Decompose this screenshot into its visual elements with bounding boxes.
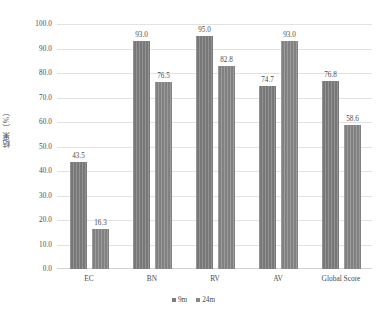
x-axis-tick-label-rv: RV: [210, 274, 220, 283]
legend-swatch-icon: [196, 298, 200, 302]
bar-ec-9m: 43.5: [70, 162, 87, 269]
bar-value-label: 16.3: [94, 219, 107, 227]
bar-value-label: 58.6: [346, 115, 359, 123]
bar-rv-9m: 95.0: [196, 36, 213, 269]
bar-bn-24m: 76.5: [155, 82, 172, 270]
bar-group-av: 74.7 93.0: [259, 24, 298, 269]
bar-value-label: 82.8: [220, 56, 233, 64]
bar-value-label: 93.0: [135, 31, 148, 39]
y-axis-tick-label: 30.0: [0, 192, 52, 200]
y-axis-tick-label: 70.0: [0, 94, 52, 102]
chart-legend: 9m 24m: [0, 296, 387, 304]
bar-rv-24m: 82.8: [218, 66, 235, 269]
bar-ec-24m: 16.3: [92, 229, 109, 269]
bar-value-label: 43.5: [72, 152, 85, 160]
x-axis-tick-label-bn: BN: [147, 274, 157, 283]
y-axis-tick-label: 90.0: [0, 45, 52, 53]
bar-group-rv: 95.0 82.8: [196, 24, 235, 269]
legend-label: 9m: [178, 296, 187, 304]
y-axis-tick-label: 50.0: [0, 143, 52, 151]
bar-av-24m: 93.0: [281, 41, 298, 269]
y-axis-tick-label: 80.0: [0, 69, 52, 77]
bar-value-label: 76.5: [157, 72, 170, 80]
bar-group-bn: 93.0 76.5: [133, 24, 172, 269]
bar-chart: 结果（%） 100.0 90.0 80.0 70.0 60.0 50.0 40.…: [0, 0, 387, 320]
y-axis-tick-label: 100.0: [0, 20, 52, 28]
y-axis-tick-label: 0.0: [0, 265, 52, 273]
bar-group-ec: 43.5 16.3: [70, 24, 109, 269]
bar-av-9m: 74.7: [259, 86, 276, 269]
bar-value-label: 74.7: [261, 76, 274, 84]
bar-bn-9m: 93.0: [133, 41, 150, 269]
bar-value-label: 95.0: [198, 26, 211, 34]
x-axis-tick-label-global-score: Global Score: [322, 274, 361, 283]
y-axis-tick-label: 40.0: [0, 167, 52, 175]
y-axis-tick-label: 10.0: [0, 241, 52, 249]
y-axis-tick-label: 20.0: [0, 216, 52, 224]
legend-label: 24m: [202, 296, 215, 304]
legend-swatch-icon: [172, 298, 176, 302]
x-axis-tick-label-av: AV: [273, 274, 283, 283]
bar-value-label: 76.8: [324, 71, 337, 79]
legend-item-9m: 9m: [172, 296, 187, 304]
bar-group-global-score: 76.8 58.6: [322, 24, 361, 269]
bar-value-label: 93.0: [283, 31, 296, 39]
plot-area: 43.5 16.3 93.0 76.5 95.0 82.8: [57, 24, 372, 269]
bar-global-score-9m: 76.8: [322, 81, 339, 269]
x-axis-tick-label-ec: EC: [84, 274, 93, 283]
legend-item-24m: 24m: [196, 296, 215, 304]
bar-global-score-24m: 58.6: [344, 125, 361, 269]
y-axis-tick-label: 60.0: [0, 118, 52, 126]
